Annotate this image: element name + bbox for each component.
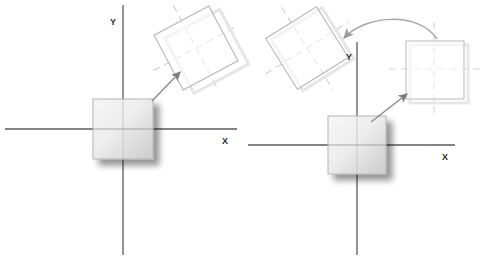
translated-square-outline bbox=[406, 41, 464, 99]
left-rotation-arrow bbox=[152, 72, 180, 101]
left-panel: Y X bbox=[5, 0, 261, 255]
diagram-canvas: Y X bbox=[0, 0, 486, 262]
left-rotated-outline-square-group bbox=[131, 0, 261, 113]
right-x-axis-label: X bbox=[442, 152, 448, 162]
transformation-diagram: Y X bbox=[0, 0, 486, 262]
left-x-axis-label: X bbox=[222, 136, 228, 146]
left-y-axis-label: Y bbox=[110, 17, 116, 27]
right-translation-arrow bbox=[371, 94, 407, 122]
right-rotated-outline-square-group bbox=[240, 0, 375, 116]
right-panel: Y X bbox=[240, 0, 481, 255]
right-rotation-curved-arrow bbox=[344, 19, 437, 39]
right-y-axis-label: Y bbox=[346, 52, 352, 62]
rotated-square-outline bbox=[266, 7, 349, 90]
